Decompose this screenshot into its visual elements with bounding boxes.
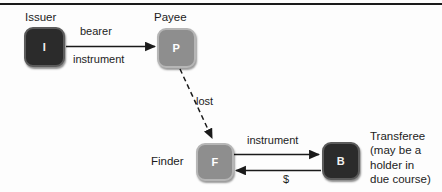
node-finder[interactable]: F [196,143,234,181]
node-issuer-caption: Issuer [25,11,56,25]
node-payee-glyph: P [173,43,181,54]
edge-label-instrument-upper: instrument [73,53,124,66]
node-issuer-glyph: I [43,42,47,53]
top-divider-rule [0,3,442,5]
edge-label-instrument-lower: instrument [247,134,298,147]
node-payee[interactable]: P [157,28,196,68]
node-finder-caption: Finder [151,155,184,169]
edge-label-bearer: bearer [80,25,112,38]
node-finder-glyph: F [211,157,218,168]
node-issuer[interactable]: I [24,27,65,67]
node-payee-caption: Payee [154,11,187,25]
edge-label-dollar: $ [283,173,289,186]
edge-label-lost: lost [196,95,213,108]
node-transferee[interactable]: B [322,142,360,180]
node-transferee-caption: Transferee (may be a holder in due cours… [370,129,431,186]
node-transferee-glyph: B [337,156,345,167]
diagram-canvas: I P F B Issuer Payee Finder Transferee (… [0,0,442,192]
